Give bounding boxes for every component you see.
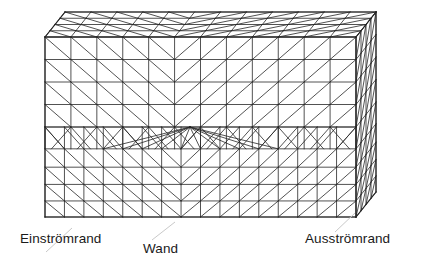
label-inflow: Einströmrand (20, 231, 101, 246)
label-wall: Wand (143, 241, 178, 256)
mesh-group (45, 12, 376, 217)
mesh-diagram (0, 0, 421, 267)
leader-wall (152, 222, 175, 240)
label-outflow: Ausströmrand (305, 231, 390, 246)
